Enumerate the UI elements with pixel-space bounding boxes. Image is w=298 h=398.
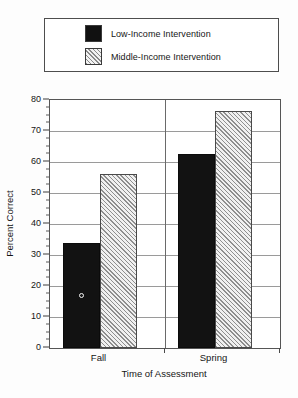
y-tick-label: 30 bbox=[31, 249, 41, 259]
hatched-swatch-icon bbox=[85, 48, 102, 65]
solid-black-swatch-icon bbox=[85, 25, 102, 42]
y-tick-label: 50 bbox=[31, 187, 41, 197]
chart-legend: Low-Income Intervention Middle-Income In… bbox=[44, 18, 279, 72]
y-tick-label: 0 bbox=[36, 342, 41, 352]
y-tick-label: 70 bbox=[31, 125, 41, 135]
plot-area bbox=[49, 99, 281, 349]
x-tick-label-spring: Spring bbox=[200, 352, 227, 363]
bar-fall-middle-income bbox=[100, 174, 137, 348]
y-axis-title-text: Percent Correct bbox=[4, 190, 15, 257]
bar-series-container bbox=[50, 100, 280, 348]
x-tick-label-fall: Fall bbox=[91, 352, 106, 363]
legend-label-low-income: Low-Income Intervention bbox=[111, 29, 211, 39]
y-tick-label: 20 bbox=[31, 280, 41, 290]
bar-chart-figure: Low-Income Intervention Middle-Income In… bbox=[0, 0, 298, 398]
bar-spring-low-income bbox=[178, 154, 215, 348]
open-circle-marker-icon bbox=[79, 293, 84, 298]
x-tick-mark bbox=[164, 348, 165, 353]
y-tick-label: 80 bbox=[31, 94, 41, 104]
bar-spring-middle-income bbox=[215, 111, 252, 348]
x-axis-title: Time of Assessment bbox=[49, 368, 279, 379]
legend-item-low-income: Low-Income Intervention bbox=[85, 25, 211, 42]
y-tick-label: 60 bbox=[31, 156, 41, 166]
x-tick-mark bbox=[279, 348, 280, 353]
legend-item-middle-income: Middle-Income Intervention bbox=[85, 48, 221, 65]
legend-label-middle-income: Middle-Income Intervention bbox=[111, 52, 221, 62]
y-tick-label: 40 bbox=[31, 218, 41, 228]
y-axis-title: Percent Correct bbox=[2, 99, 16, 347]
y-tick-label: 10 bbox=[31, 311, 41, 321]
